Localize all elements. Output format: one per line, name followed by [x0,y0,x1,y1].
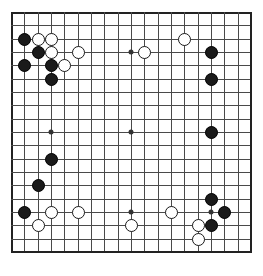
black-stone[interactable] [45,153,58,166]
white-stone[interactable] [45,206,58,219]
black-stone[interactable] [205,126,218,139]
black-stone[interactable] [32,46,45,59]
white-stone[interactable] [138,46,151,59]
go-board[interactable] [11,12,252,264]
white-stone[interactable] [32,33,45,46]
white-stone[interactable] [45,46,58,59]
black-stone[interactable] [32,179,45,192]
white-stone[interactable] [125,219,138,232]
white-stone[interactable] [178,33,191,46]
white-stone[interactable] [32,219,45,232]
white-stone[interactable] [58,59,71,72]
black-stone[interactable] [218,206,231,219]
board-stones[interactable] [11,12,252,264]
white-stone[interactable] [192,219,205,232]
black-stone[interactable] [205,193,218,206]
white-stone[interactable] [72,206,85,219]
white-stone[interactable] [165,206,178,219]
white-stone[interactable] [192,233,205,246]
black-stone[interactable] [18,59,31,72]
black-stone[interactable] [205,46,218,59]
white-stone[interactable] [45,33,58,46]
black-stone[interactable] [45,59,58,72]
black-stone[interactable] [18,206,31,219]
black-stone[interactable] [205,73,218,86]
go-board-container [0,0,263,276]
white-stone[interactable] [72,46,85,59]
black-stone[interactable] [18,33,31,46]
black-stone[interactable] [205,219,218,232]
black-stone[interactable] [45,73,58,86]
